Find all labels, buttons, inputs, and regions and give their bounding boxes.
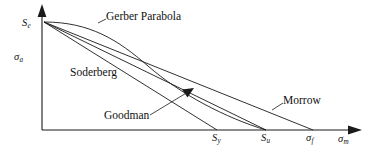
curve-label-gerber: Gerber Parabola	[106, 11, 181, 23]
y-axis-endurance-limit-label: Se	[22, 18, 30, 29]
x-axis-tick-true-fracture-strength: σf	[306, 133, 313, 144]
diagram-canvas	[0, 0, 372, 154]
x-axis	[42, 126, 362, 135]
morrow-leader	[272, 103, 283, 110]
curve-label-morrow: Morrow	[283, 95, 321, 107]
x-axis-tick-ultimate-strength: Su	[261, 133, 270, 144]
curve-label-soderberg: Soderberg	[70, 67, 117, 79]
mean-stress-criteria-diagram: Se σa Gerber Parabola Soderberg Goodman …	[0, 0, 372, 154]
curve-label-goodman: Goodman	[104, 110, 149, 122]
y-axis-label: σa	[14, 52, 23, 63]
gerber-leader	[98, 19, 106, 23]
y-axis-arrow-icon	[38, 4, 47, 17]
x-axis-arrow-icon	[348, 126, 362, 135]
x-axis-label: σm	[338, 134, 348, 145]
x-axis-tick-yield-strength: Sy	[212, 133, 220, 144]
